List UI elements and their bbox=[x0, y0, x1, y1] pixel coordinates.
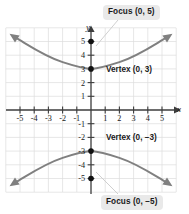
focus-top-point bbox=[88, 39, 94, 45]
coordinate-plane-svg: -5 -4 -3 -2 -1 1 2 3 4 5 5 4 3 2 1 -1 -2… bbox=[0, 0, 189, 214]
x-tick-label: -2 bbox=[59, 114, 66, 123]
vertex-top-annotation: Vertex (0, 3) bbox=[106, 66, 152, 74]
x-axis-tick-labels: -5 -4 -3 -2 -1 1 2 3 4 5 bbox=[17, 114, 164, 123]
y-tick-label: -2 bbox=[78, 133, 85, 142]
y-tick-label: 4 bbox=[81, 51, 85, 60]
x-tick-label: -3 bbox=[45, 114, 52, 123]
vertex-bottom-point bbox=[88, 148, 94, 154]
vertex-top-point bbox=[88, 66, 94, 72]
x-tick-label: 2 bbox=[117, 114, 121, 123]
y-tick-label: 2 bbox=[81, 79, 85, 88]
y-axis-label: y bbox=[86, 22, 90, 32]
axis-lines bbox=[6, 27, 174, 194]
y-tick-label: -3 bbox=[78, 147, 85, 156]
focus-top-annotation: Focus (0, 5) bbox=[103, 5, 160, 20]
x-tick-label: -5 bbox=[17, 114, 24, 123]
callout-leader-lines bbox=[96, 20, 118, 194]
x-axis-label: x bbox=[177, 104, 181, 114]
focus-bottom-point bbox=[88, 176, 94, 182]
y-tick-label: -5 bbox=[78, 174, 85, 183]
vertex-bottom-annotation: Vertex (0, −3) bbox=[106, 134, 157, 142]
y-tick-label: -4 bbox=[78, 161, 85, 170]
x-tick-label: 4 bbox=[146, 114, 150, 123]
y-tick-label: -1 bbox=[78, 120, 85, 129]
y-tick-label: 1 bbox=[81, 92, 85, 101]
x-tick-label: -4 bbox=[31, 114, 38, 123]
focus-bottom-annotation: Focus (0, −5) bbox=[101, 195, 163, 210]
x-tick-label: 1 bbox=[103, 114, 107, 123]
focus-bottom-leader bbox=[96, 172, 118, 194]
x-tick-label: 5 bbox=[160, 114, 164, 123]
y-tick-label: 5 bbox=[81, 37, 85, 46]
focus-top-leader bbox=[96, 20, 118, 46]
y-tick-label: 3 bbox=[81, 65, 85, 74]
x-tick-label: 3 bbox=[132, 114, 136, 123]
hyperbola-graph-figure: -5 -4 -3 -2 -1 1 2 3 4 5 5 4 3 2 1 -1 -2… bbox=[0, 0, 189, 214]
